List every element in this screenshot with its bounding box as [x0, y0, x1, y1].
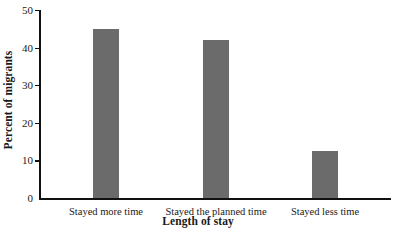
bar-stayed-more-time — [93, 29, 119, 198]
y-tick-mark — [35, 48, 40, 49]
y-tick-label: 10 — [22, 154, 33, 166]
bar-chart-figure: Percent of migrants 50 40 30 20 10 0 — [0, 0, 396, 233]
y-tick-label: 40 — [22, 42, 33, 54]
x-axis-title: Length of stay — [0, 215, 396, 227]
plot-area: 50 40 30 20 10 0 Stayed more time Stayed… — [39, 10, 391, 198]
y-axis-title-text: Percent of migrants — [2, 51, 14, 150]
bar-stayed-less-time — [312, 151, 338, 198]
y-tick-label: 30 — [22, 79, 33, 91]
y-tick-mark — [35, 85, 40, 86]
y-tick-mark — [35, 10, 40, 11]
y-tick-mark — [35, 123, 40, 124]
y-tick-mark — [35, 160, 40, 161]
x-axis-line — [39, 198, 391, 200]
y-tick-label: 20 — [22, 117, 33, 129]
y-tick-label: 50 — [22, 4, 33, 16]
y-axis-title: Percent of migrants — [0, 0, 16, 200]
y-tick-label: 0 — [28, 192, 34, 204]
bar-stayed-planned-time — [203, 40, 229, 198]
y-axis-line — [39, 10, 41, 198]
